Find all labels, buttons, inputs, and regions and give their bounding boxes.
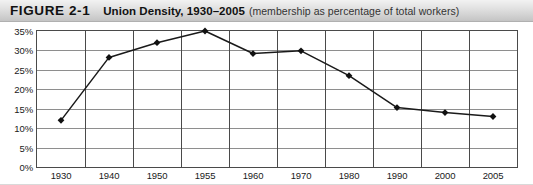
figure-number: FIGURE 2-1 (10, 3, 90, 18)
x-tick-label: 1980 (339, 170, 360, 181)
x-tick-label: 1960 (243, 170, 264, 181)
figure-title: Union Density, 1930–2005 (103, 5, 245, 17)
y-tick-label: 30% (1, 45, 33, 56)
x-axis: 1930194019501955196019701980199020002005 (36, 170, 518, 185)
figure-bottom-rule (0, 184, 533, 185)
figure-header: FIGURE 2-1 Union Density, 1930–2005 (mem… (0, 0, 533, 22)
x-tick-label: 1955 (195, 170, 216, 181)
x-tick-label: 1950 (147, 170, 168, 181)
data-point-marker (250, 50, 257, 57)
y-tick-label: 0% (1, 162, 33, 173)
data-point-marker (490, 113, 497, 120)
data-point-marker (202, 28, 209, 35)
x-tick-label: 1940 (99, 170, 120, 181)
x-tick-label: 1930 (51, 170, 72, 181)
figure-container: FIGURE 2-1 Union Density, 1930–2005 (mem… (0, 0, 533, 185)
x-tick-label: 2000 (435, 170, 456, 181)
data-point-marker (298, 47, 305, 54)
figure-subtitle: (membership as percentage of total worke… (249, 5, 460, 17)
x-tick-label: 1990 (387, 170, 408, 181)
y-tick-label: 35% (1, 26, 33, 37)
y-tick-label: 10% (1, 123, 33, 134)
chart-body: 0%5%10%15%20%25%30%35% 19301940195019551… (0, 22, 533, 185)
y-tick-label: 20% (1, 84, 33, 95)
x-tick-label: 2005 (483, 170, 504, 181)
data-point-marker (442, 109, 449, 116)
series-line (61, 31, 493, 120)
x-tick-label: 1970 (291, 170, 312, 181)
y-tick-label: 5% (1, 142, 33, 153)
y-tick-label: 15% (1, 103, 33, 114)
y-axis: 0%5%10%15%20%25%30%35% (0, 30, 33, 168)
data-point-marker (154, 39, 161, 46)
y-tick-label: 25% (1, 64, 33, 75)
line-series (36, 30, 518, 168)
